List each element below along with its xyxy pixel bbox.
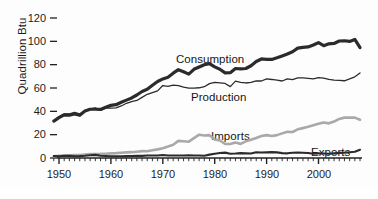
series-line-imports (54, 118, 360, 157)
data-series (54, 39, 360, 156)
chart-plot-area (0, 0, 378, 199)
series-line-consumption (54, 39, 360, 121)
figure-bottom-margin (0, 187, 378, 199)
energy-overview-chart: Quadrillion Btu 120 100 80 60 40 20 0 19… (0, 0, 378, 199)
axis-ticks (50, 18, 360, 164)
series-line-production (54, 73, 360, 121)
